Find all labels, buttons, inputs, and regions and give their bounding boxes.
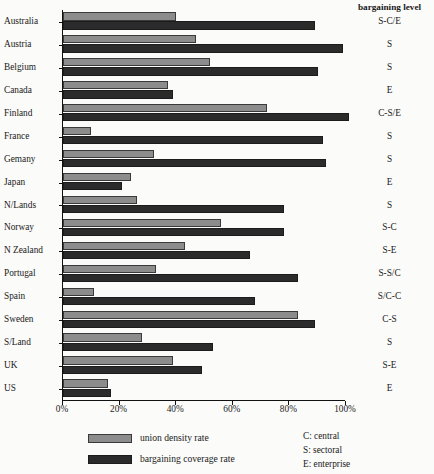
bar-bargaining-coverage-rate: [63, 366, 202, 374]
category-tick-mark: [59, 137, 63, 138]
bar-bargaining-coverage-rate: [63, 228, 284, 236]
legend-label-bargaining-coverage-rate: bargaining coverage rate: [140, 453, 235, 464]
category-label-spain: Spain: [0, 285, 56, 308]
legend-label-union-density-rate: union density rate: [140, 432, 209, 443]
bargaining-level-value: S-E: [345, 239, 434, 262]
category-label-uk: UK: [0, 354, 56, 377]
x-tick-label: 100%: [334, 404, 356, 414]
category-tick-mark: [59, 183, 63, 184]
category-label-n-lands: N/Lands: [0, 194, 56, 217]
bar-union-density-rate: [63, 104, 267, 112]
x-tick-label: 20%: [110, 404, 127, 414]
category-label-us: US: [0, 377, 56, 400]
bar-bargaining-coverage-rate: [63, 297, 255, 305]
bar-group: [63, 102, 346, 125]
bar-group: [63, 56, 346, 79]
category-tick-mark: [59, 114, 63, 115]
category-tick-mark: [59, 45, 63, 46]
key-line-sectoral: S: sectoral: [303, 445, 342, 455]
category-tick-mark: [59, 22, 63, 23]
bar-bargaining-coverage-rate: [63, 90, 173, 98]
bar-bargaining-coverage-rate: [63, 205, 284, 213]
plot-area: [62, 10, 346, 400]
key-line-enterprise: E: enterprise: [303, 459, 350, 469]
bar-union-density-rate: [63, 333, 142, 341]
bar-group: [63, 285, 346, 308]
bargaining-level-value: S: [345, 33, 434, 56]
category-tick-mark: [59, 205, 63, 206]
bargaining-level-value: S: [345, 148, 434, 171]
category-tick-mark: [59, 160, 63, 161]
bargaining-level-value: S-S/C: [345, 262, 434, 285]
bargaining-level-value: E: [345, 79, 434, 102]
bar-union-density-rate: [63, 196, 137, 204]
category-tick-mark: [59, 366, 63, 367]
x-axis: [62, 400, 345, 401]
category-label-australia: Australia: [0, 10, 56, 33]
category-tick-mark: [59, 274, 63, 275]
bar-union-density-rate: [63, 379, 108, 387]
bar-group: [63, 262, 346, 285]
bar-bargaining-coverage-rate: [63, 44, 343, 52]
category-tick-mark: [59, 297, 63, 298]
x-tick-label: 0%: [56, 404, 68, 414]
bar-bargaining-coverage-rate: [63, 182, 122, 190]
x-tick-label: 40%: [167, 404, 184, 414]
bar-group: [63, 354, 346, 377]
bar-union-density-rate: [63, 265, 156, 273]
x-tick-label: 60%: [223, 404, 240, 414]
category-label-sweden: Sweden: [0, 308, 56, 331]
bar-bargaining-coverage-rate: [63, 274, 298, 282]
category-tick-mark: [59, 251, 63, 252]
bar-group: [63, 239, 346, 262]
bar-group: [63, 171, 346, 194]
bar-union-density-rate: [63, 173, 131, 181]
bar-bargaining-coverage-rate: [63, 67, 318, 75]
bargaining-level-value: C-S/E: [345, 102, 434, 125]
bargaining-level-value: S: [345, 331, 434, 354]
category-label-portugal: Portugal: [0, 262, 56, 285]
bar-union-density-rate: [63, 356, 173, 364]
bargaining-level-value: S: [345, 56, 434, 79]
category-label-s-land: S/Land: [0, 331, 56, 354]
bar-bargaining-coverage-rate: [63, 343, 213, 351]
bar-group: [63, 148, 346, 171]
category-tick-mark: [59, 68, 63, 69]
bargaining-level-value: S: [345, 125, 434, 148]
bar-group: [63, 331, 346, 354]
bar-union-density-rate: [63, 127, 91, 135]
bar-group: [63, 10, 346, 33]
category-label-norway: Norway: [0, 216, 56, 239]
category-tick-mark: [59, 228, 63, 229]
bar-union-density-rate: [63, 35, 196, 43]
bargaining-level-value: S: [345, 194, 434, 217]
category-tick-mark: [59, 91, 63, 92]
bar-bargaining-coverage-rate: [63, 251, 250, 259]
bargaining-level-value: S-C: [345, 216, 434, 239]
x-tick-label: 80%: [280, 404, 297, 414]
category-label-belgium: Belgium: [0, 56, 56, 79]
bargaining-level-value: E: [345, 171, 434, 194]
bar-bargaining-coverage-rate: [63, 159, 326, 167]
bar-group: [63, 125, 346, 148]
category-label-japan: Japan: [0, 171, 56, 194]
bargaining-level-column: bargaining level S-C/ESSEC-S/ESSESS-CS-E…: [345, 10, 434, 400]
category-label-n-zealand: N Zealand: [0, 239, 56, 262]
bargaining-level-value: C-S: [345, 308, 434, 331]
chart-legend: union density rate bargaining coverage r…: [0, 428, 434, 474]
category-tick-mark: [59, 389, 63, 390]
category-label-finland: Finland: [0, 102, 56, 125]
bar-group: [63, 216, 346, 239]
bar-union-density-rate: [63, 219, 221, 227]
category-label-gemany: Gemany: [0, 148, 56, 171]
bar-bargaining-coverage-rate: [63, 320, 315, 328]
bar-union-density-rate: [63, 81, 168, 89]
legend-swatch-union-density-rate: [88, 434, 132, 443]
bargaining-level-value: S-C/E: [345, 10, 434, 33]
bar-group: [63, 377, 346, 400]
category-label-austria: Austria: [0, 33, 56, 56]
bar-union-density-rate: [63, 58, 210, 66]
bargaining-level-value: E: [345, 377, 434, 400]
bar-bargaining-coverage-rate: [63, 113, 349, 121]
key-line-central: C: central: [303, 431, 339, 441]
